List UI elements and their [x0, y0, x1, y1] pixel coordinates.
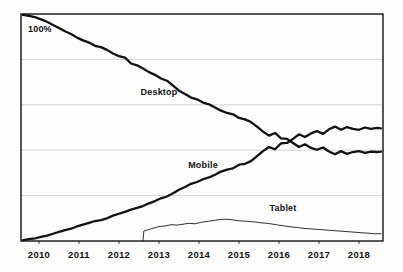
x-tick-label-2016: 2016	[268, 249, 290, 260]
line-chart-canvas	[0, 0, 403, 272]
series-line-tablet	[143, 219, 381, 241]
x-tick-label-2010: 2010	[28, 249, 50, 260]
x-tick-label-2018: 2018	[348, 249, 370, 260]
x-tick-label-2015: 2015	[228, 249, 250, 260]
series-label-desktop: Desktop	[141, 87, 178, 97]
series-line-mobile	[23, 127, 381, 241]
x-tick-label-2012: 2012	[108, 249, 130, 260]
series-line-desktop	[23, 15, 381, 154]
x-tick-label-2011: 2011	[68, 249, 90, 260]
series-lines	[23, 15, 381, 241]
grid-lines	[21, 59, 383, 195]
series-label-mobile: Mobile	[188, 160, 218, 170]
chart-figure: 100% DesktopMobileTablet 201020112012201…	[0, 0, 403, 272]
series-label-tablet: Tablet	[269, 203, 296, 213]
y-axis-max-label: 100%	[28, 24, 52, 34]
plot-border	[21, 14, 383, 241]
x-tick-label-2017: 2017	[308, 249, 330, 260]
x-tick-label-2013: 2013	[148, 249, 170, 260]
x-tick-label-2014: 2014	[188, 249, 210, 260]
